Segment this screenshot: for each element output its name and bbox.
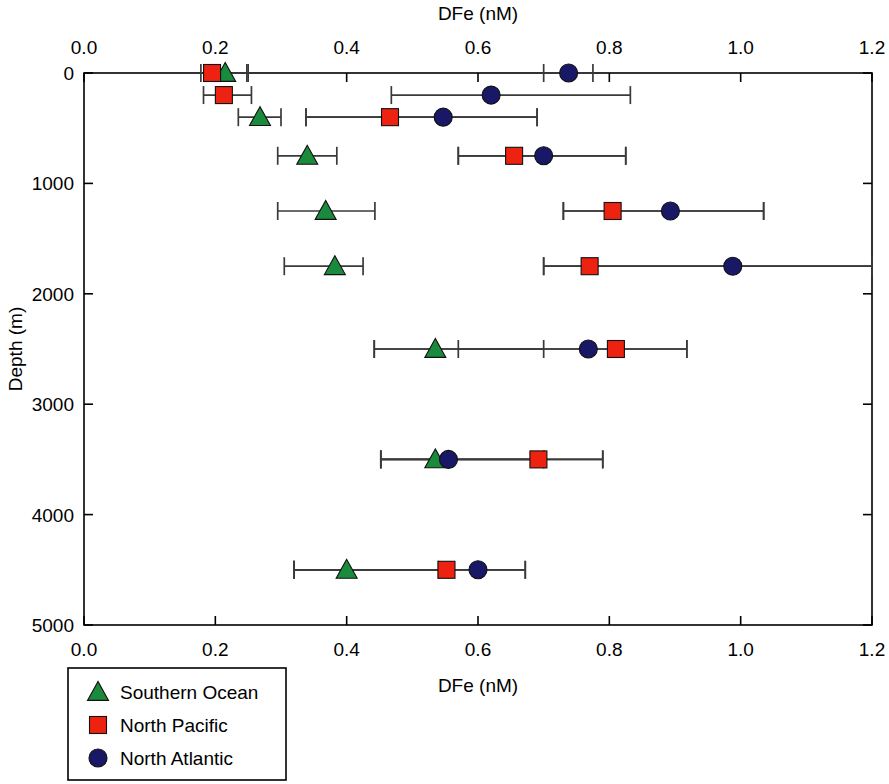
x-tick-label-bottom: 1.0 — [727, 639, 753, 660]
data-point-north-atlantic[interactable] — [661, 202, 679, 220]
y-tick-label: 2000 — [32, 284, 74, 305]
error-bar — [381, 450, 603, 468]
error-bar — [391, 86, 630, 104]
dfe-depth-scatter-chart: DFe (nM)DFe (nM)Depth (m)0.00.00.20.20.4… — [0, 0, 889, 784]
legend-marker-circle-icon — [89, 749, 107, 767]
data-point-north-atlantic[interactable] — [482, 86, 500, 104]
data-point-southern-ocean[interactable] — [249, 107, 270, 126]
data-point-north-atlantic[interactable] — [434, 108, 452, 126]
error-bar — [306, 108, 537, 126]
data-point-north-pacific[interactable] — [604, 203, 621, 220]
y-tick-label: 1000 — [32, 173, 74, 194]
data-point-north-pacific[interactable] — [581, 258, 598, 275]
legend-label: North Atlantic — [120, 748, 233, 769]
x-tick-label-bottom: 0.4 — [333, 639, 360, 660]
x-tick-label-top: 0.8 — [596, 37, 622, 58]
data-point-north-pacific[interactable] — [530, 451, 547, 468]
data-point-north-pacific[interactable] — [215, 87, 232, 104]
x-tick-label-bottom: 0.6 — [465, 639, 491, 660]
data-point-north-pacific[interactable] — [506, 147, 523, 164]
x-tick-label-top: 1.0 — [727, 37, 753, 58]
x-tick-label-top: 0.2 — [202, 37, 228, 58]
x-tick-label-top: 0.4 — [333, 37, 360, 58]
error-bar — [374, 340, 687, 358]
data-point-north-pacific[interactable] — [438, 561, 455, 578]
data-point-north-pacific[interactable] — [382, 109, 399, 126]
data-point-southern-ocean[interactable] — [324, 256, 345, 275]
data-point-north-atlantic[interactable] — [560, 64, 578, 82]
x-tick-label-top: 1.2 — [859, 37, 885, 58]
y-tick-label: 3000 — [32, 394, 74, 415]
x-axis-title-top: DFe (nM) — [438, 3, 518, 24]
data-point-north-atlantic[interactable] — [535, 147, 553, 165]
figure-container: DFe (nM)DFe (nM)Depth (m)0.00.00.20.20.4… — [0, 0, 889, 784]
y-tick-label: 4000 — [32, 505, 74, 526]
legend-marker-square-icon — [90, 717, 107, 734]
legend-label: Southern Ocean — [120, 682, 258, 703]
data-point-north-atlantic[interactable] — [579, 340, 597, 358]
data-point-north-pacific[interactable] — [607, 341, 624, 358]
x-tick-label-bottom: 0.0 — [71, 639, 97, 660]
x-tick-label-top: 0.0 — [71, 37, 97, 58]
x-axis-title-bottom: DFe (nM) — [438, 675, 518, 696]
data-point-southern-ocean[interactable] — [425, 339, 446, 358]
x-tick-label-bottom: 0.8 — [596, 639, 622, 660]
data-point-southern-ocean[interactable] — [315, 201, 336, 220]
x-tick-label-bottom: 1.2 — [859, 639, 885, 660]
legend-label: North Pacific — [120, 715, 228, 736]
x-tick-label-bottom: 0.2 — [202, 639, 228, 660]
error-bar — [294, 561, 525, 579]
error-bar — [284, 257, 363, 275]
data-point-north-atlantic[interactable] — [724, 257, 742, 275]
x-tick-label-top: 0.6 — [465, 37, 491, 58]
data-point-southern-ocean[interactable] — [297, 145, 318, 164]
y-tick-label: 5000 — [32, 615, 74, 636]
y-axis-title: Depth (m) — [5, 307, 26, 391]
y-tick-label: 0 — [63, 63, 74, 84]
data-point-north-pacific[interactable] — [204, 65, 221, 82]
data-point-north-atlantic[interactable] — [439, 450, 457, 468]
data-point-north-atlantic[interactable] — [469, 561, 487, 579]
data-point-southern-ocean[interactable] — [336, 559, 357, 578]
